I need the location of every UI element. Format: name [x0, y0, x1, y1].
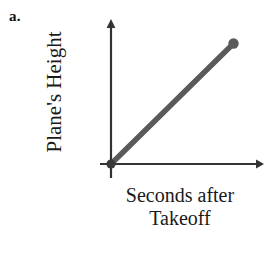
x-axis — [100, 160, 264, 169]
x-axis-arrowhead-icon — [256, 160, 264, 169]
x-axis-label-line-1: Seconds after — [104, 184, 256, 207]
y-axis-arrowhead-icon — [107, 19, 116, 28]
figure-container: a. Plane's Height Seconds after Takeoff — [0, 0, 266, 254]
origin-point-marker — [106, 159, 115, 168]
height-vs-time-line — [111, 44, 233, 164]
y-axis-label: Plane's Height — [42, 12, 66, 172]
x-axis-label-line-2: Takeoff — [104, 207, 256, 230]
y-axis — [107, 19, 116, 178]
endpoint-dot-marker — [228, 38, 238, 48]
x-axis-label: Seconds after Takeoff — [104, 184, 256, 230]
data-series-line — [106, 38, 238, 168]
